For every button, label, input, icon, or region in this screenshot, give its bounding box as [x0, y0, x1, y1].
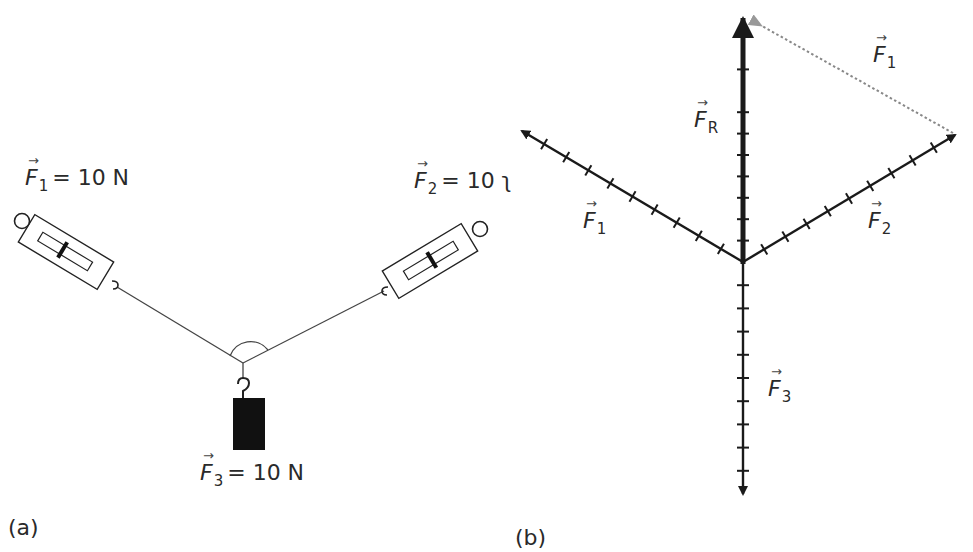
ring-left-icon	[15, 214, 30, 229]
vector-symbol: F	[768, 378, 781, 400]
subscript: 3	[214, 472, 224, 490]
diagram-canvas	[0, 0, 973, 552]
label-fr: FR	[694, 109, 718, 136]
vector-symbol: F	[694, 109, 707, 131]
label-f1-shifted: F1	[873, 44, 896, 71]
subscript: 3	[782, 388, 792, 406]
label-f3-value: F3= 10 N	[200, 462, 304, 489]
panel-a-setup	[15, 214, 488, 451]
subscript: 2	[882, 220, 892, 238]
label-b-f3: F3	[768, 378, 791, 405]
vector-symbol: F	[583, 210, 596, 232]
subscript: R	[708, 119, 718, 137]
spring-scale-left-icon	[18, 215, 113, 290]
label-f1-value: F1= 10 N	[25, 167, 129, 194]
subscript: 2	[428, 180, 438, 198]
hook-weight-icon	[238, 378, 249, 398]
weight-block-icon	[233, 398, 265, 450]
hook-left-icon	[112, 281, 118, 289]
vector-symbol: F	[868, 210, 881, 232]
ring-right-icon	[473, 222, 488, 237]
vector-symbol: F	[873, 44, 886, 66]
vector-f1-shifted-dotted	[762, 26, 953, 133]
spring-scale-right-icon	[382, 224, 477, 299]
rope-left	[117, 287, 243, 363]
subscript: 1	[887, 54, 897, 72]
caption-a: (a)	[8, 515, 39, 540]
force-value: = 10 N	[227, 460, 304, 485]
vector-symbol: F	[200, 462, 213, 484]
force-value: = 10 ʅ	[441, 168, 512, 193]
label-f2-value: F2= 10 ʅ	[414, 170, 512, 197]
subscript: 1	[597, 220, 607, 238]
label-b-f2: F2	[868, 210, 891, 237]
vector-symbol: F	[414, 170, 427, 192]
rope-right	[243, 291, 384, 363]
subscript: 1	[39, 177, 49, 195]
force-value: = 10 N	[52, 165, 129, 190]
panel-b-vector-diagram	[522, 18, 955, 494]
vector-symbol: F	[25, 167, 38, 189]
label-b-f1: F1	[583, 210, 606, 237]
tick-marks	[541, 69, 937, 470]
caption-b: (b)	[515, 525, 546, 550]
